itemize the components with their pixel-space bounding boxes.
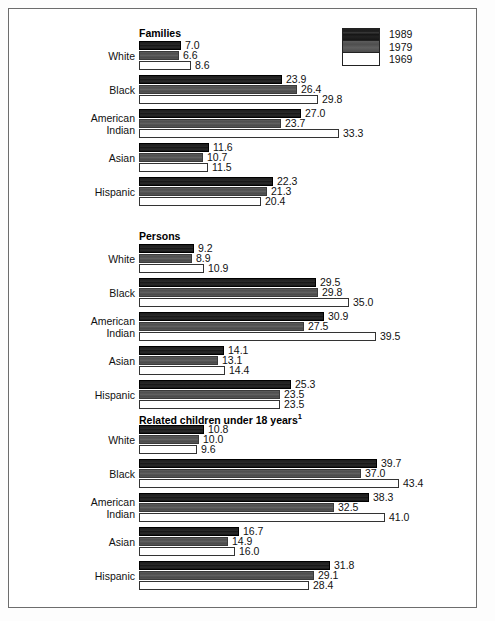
panel-title-footnote-marker: 1 (298, 412, 302, 421)
category-label: White (9, 244, 139, 275)
bar-value-label: 33.3 (343, 128, 363, 139)
bar-value-label: 29.8 (322, 94, 342, 105)
bar-1969 (139, 547, 235, 556)
category-label-line: Hispanic (95, 187, 135, 199)
bar-value-label: 28.4 (313, 580, 333, 591)
category-label-line: Asian (109, 356, 135, 368)
category-label-line: Black (109, 85, 135, 97)
category-label-line: Indian (106, 509, 135, 521)
bar-1969 (139, 479, 399, 488)
bar-1969 (139, 445, 197, 454)
bar-value-label: 9.6 (201, 444, 216, 455)
category-label-line: White (108, 435, 135, 447)
category-label: White (9, 41, 139, 72)
bar-1969 (139, 197, 261, 206)
bar-1989 (139, 75, 282, 84)
category-label: Asian (9, 143, 139, 174)
chart-group: Hispanic22.321.320.4 (9, 177, 476, 208)
bar-1969 (139, 332, 376, 341)
bar-value-label: 10.9 (208, 263, 228, 274)
legend-swatch-1989 (343, 29, 379, 41)
chart-group: Asian14.113.114.4 (9, 346, 476, 377)
bar-1979 (139, 322, 304, 331)
category-label: Black (9, 459, 139, 490)
bar-1979 (139, 571, 314, 580)
category-label-line: Asian (109, 537, 135, 549)
bar-1979 (139, 537, 228, 546)
bar-1979 (139, 469, 361, 478)
bar-1969 (139, 61, 191, 70)
category-label: Black (9, 75, 139, 106)
category-label-line: Asian (109, 153, 135, 165)
bar-1979 (139, 187, 267, 196)
category-label: Hispanic (9, 380, 139, 411)
category-label: AmericanIndian (9, 493, 139, 524)
bar-1969 (139, 581, 309, 590)
bar-1969 (139, 129, 339, 138)
chart-group: White9.28.910.9 (9, 244, 476, 275)
chart-figure: 1989 1979 1969 FamiliesWhite7.06.68.6Bla… (0, 0, 495, 621)
chart-group: Hispanic31.829.128.4 (9, 561, 476, 592)
category-label: Hispanic (9, 561, 139, 592)
bar-value-label: 20.4 (265, 196, 285, 207)
legend-label-1989: 1989 (389, 28, 412, 41)
bar-value-label: 11.5 (212, 162, 232, 173)
bar-value-label: 27.0 (305, 108, 325, 119)
bar-1989 (139, 527, 239, 536)
category-label: AmericanIndian (9, 312, 139, 343)
bar-value-label: 39.5 (380, 331, 400, 342)
bar-1979 (139, 153, 203, 162)
bar-value-label: 29.8 (322, 287, 342, 298)
bar-value-label: 43.4 (403, 478, 423, 489)
chart-group: Asian11.610.711.5 (9, 143, 476, 174)
category-label-line: American (91, 497, 135, 509)
bar-1969 (139, 264, 204, 273)
bar-1989 (139, 346, 224, 355)
bar-value-label: 41.0 (389, 512, 409, 523)
bar-1979 (139, 51, 179, 60)
category-label-line: White (108, 51, 135, 63)
bar-1969 (139, 366, 225, 375)
category-label-line: Hispanic (95, 571, 135, 583)
bar-1989 (139, 425, 204, 434)
bar-1989 (139, 493, 369, 502)
chart-group: Black29.529.835.0 (9, 278, 476, 309)
bar-1989 (139, 278, 316, 287)
bar-1979 (139, 390, 280, 399)
bar-value-label: 37.0 (365, 468, 385, 479)
bar-value-label: 27.5 (308, 321, 328, 332)
bar-1989 (139, 561, 330, 570)
bar-1979 (139, 503, 334, 512)
category-label-line: Hispanic (95, 390, 135, 402)
panel-title: Persons (139, 230, 180, 242)
category-label-line: Black (109, 469, 135, 481)
category-label-line: Black (109, 288, 135, 300)
chart-group: Black39.737.043.4 (9, 459, 476, 490)
category-label: White (9, 425, 139, 456)
bar-1989 (139, 459, 377, 468)
chart-group: Black23.926.429.8 (9, 75, 476, 106)
bar-1969 (139, 298, 349, 307)
bar-1989 (139, 312, 324, 321)
bar-value-label: 26.4 (301, 84, 321, 95)
bar-value-label: 35.0 (353, 297, 373, 308)
bar-1979 (139, 356, 218, 365)
category-label: Asian (9, 527, 139, 558)
bar-value-label: 14.4 (229, 365, 249, 376)
chart-group: White10.810.09.6 (9, 425, 476, 456)
bar-1989 (139, 143, 209, 152)
bar-1979 (139, 119, 281, 128)
chart-group: AmericanIndian27.023.733.3 (9, 109, 476, 140)
bar-1969 (139, 163, 208, 172)
category-label: Hispanic (9, 177, 139, 208)
chart-group: White7.06.68.6 (9, 41, 476, 72)
panel-title: Families (139, 27, 181, 39)
chart-group: AmericanIndian38.332.541.0 (9, 493, 476, 524)
bar-1969 (139, 95, 318, 104)
bar-1989 (139, 177, 273, 186)
category-label-line: American (91, 113, 135, 125)
bar-1989 (139, 244, 194, 253)
category-label: Black (9, 278, 139, 309)
category-label-line: White (108, 254, 135, 266)
chart-frame: 1989 1979 1969 FamiliesWhite7.06.68.6Bla… (8, 8, 477, 608)
